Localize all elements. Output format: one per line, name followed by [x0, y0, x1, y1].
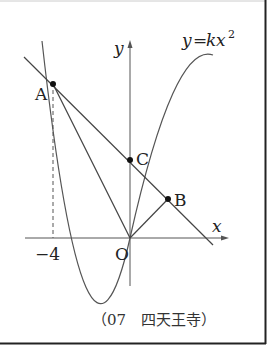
label-origin: O [115, 244, 129, 264]
label-x-axis: x [212, 216, 222, 236]
y-axis-arrow-icon [128, 40, 133, 48]
svg-text:2: 2 [228, 28, 235, 41]
x-axis-arrow-icon [221, 236, 229, 241]
figure-frame: A C B O −4 x y y = k x 2 （07 四天王寺） [0, 0, 276, 346]
curve-equation: y = k x 2 [181, 28, 235, 50]
label-tick-minus4: −4 [35, 244, 60, 264]
svg-text:k: k [206, 30, 216, 50]
point-c [127, 157, 133, 163]
point-b [165, 196, 171, 202]
label-y-axis: y [113, 38, 124, 58]
geometry-diagram: A C B O −4 x y y = k x 2 [0, 0, 276, 346]
label-c: C [136, 149, 149, 169]
parabola-left [42, 41, 130, 304]
parabola-right [130, 54, 213, 238]
svg-text:y: y [181, 30, 192, 50]
segment-oa [53, 84, 130, 238]
label-a: A [34, 84, 48, 104]
label-b: B [174, 190, 187, 210]
source-caption: （07 四天王寺） [92, 308, 216, 329]
point-a [50, 81, 56, 87]
svg-text:x: x [216, 30, 226, 50]
segment-ob [130, 199, 168, 238]
